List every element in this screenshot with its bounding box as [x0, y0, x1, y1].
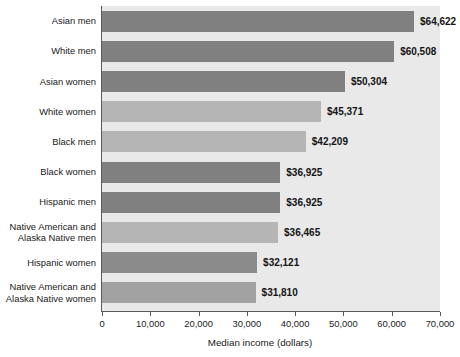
x-tick-mark — [343, 312, 344, 316]
bar-container: $31,810 — [102, 282, 440, 303]
bar-row: Asian men$64,622 — [0, 6, 460, 36]
bar-value-label: $36,465 — [278, 222, 320, 243]
x-axis-title-label: Median income (dollars) — [208, 337, 313, 348]
x-tick-label: 20,000 — [184, 318, 213, 329]
bar-container: $64,622 — [102, 11, 440, 32]
x-tick-label: 60,000 — [377, 318, 406, 329]
bar — [102, 252, 257, 273]
x-tick-mark — [295, 312, 296, 316]
bar-row: Black men$42,209 — [0, 127, 460, 157]
x-tick-mark — [440, 312, 441, 316]
x-tick-mark — [247, 312, 248, 316]
bar-container: $45,371 — [102, 101, 440, 122]
category-label: Asian women — [0, 66, 96, 96]
x-tick-mark — [102, 312, 103, 316]
bar-container: $42,209 — [102, 131, 440, 152]
bar-value-label: $36,925 — [280, 192, 322, 213]
x-tick-label: 50,000 — [329, 318, 358, 329]
bar-container: $32,121 — [102, 252, 440, 273]
bar-container: $50,304 — [102, 71, 440, 92]
bar — [102, 101, 321, 122]
bar-chart: Asian men$64,622White men$60,508Asian wo… — [0, 0, 460, 357]
x-tick-mark — [199, 312, 200, 316]
bar — [102, 192, 280, 213]
bar — [102, 131, 306, 152]
bar-container: $36,925 — [102, 162, 440, 183]
category-label: Black women — [0, 157, 96, 187]
x-tick-label: 0 — [99, 318, 104, 329]
bar — [102, 282, 256, 303]
x-tick-label: 30,000 — [233, 318, 262, 329]
x-tick-label: 10,000 — [136, 318, 165, 329]
bar — [102, 41, 394, 62]
bar-row: Hispanic men$36,925 — [0, 187, 460, 217]
bar-value-label: $45,371 — [321, 101, 363, 122]
category-label: Black men — [0, 127, 96, 157]
x-axis-title: Median income (dollars) — [0, 337, 460, 348]
bar-container: $36,925 — [102, 192, 440, 213]
x-tick-mark — [392, 312, 393, 316]
x-tick-label: 40,000 — [281, 318, 310, 329]
bar-row: Asian women$50,304 — [0, 66, 460, 96]
bar — [102, 222, 278, 243]
category-label: Native American andAlaska Native women — [0, 278, 96, 308]
x-axis-line — [101, 311, 440, 312]
bar-row: Native American andAlaska Native women$3… — [0, 278, 460, 308]
x-tick-mark — [150, 312, 151, 316]
category-label: White women — [0, 97, 96, 127]
bar-container: $36,465 — [102, 222, 440, 243]
bar — [102, 11, 414, 32]
bar-value-label: $32,121 — [257, 252, 299, 273]
bar-value-label: $42,209 — [306, 131, 348, 152]
category-label: White men — [0, 36, 96, 66]
bar-row: White men$60,508 — [0, 36, 460, 66]
x-tick-label: 70,000 — [426, 318, 455, 329]
category-label: Hispanic men — [0, 187, 96, 217]
category-label: Asian men — [0, 6, 96, 36]
bar-row: Black women$36,925 — [0, 157, 460, 187]
bar-container: $60,508 — [102, 41, 440, 62]
bar-row: Native American andAlaska Native men$36,… — [0, 217, 460, 247]
bar-value-label: $31,810 — [256, 282, 298, 303]
bar-value-label: $64,622 — [414, 11, 456, 32]
bar-value-label: $60,508 — [394, 41, 436, 62]
bar — [102, 162, 280, 183]
bar-value-label: $50,304 — [345, 71, 387, 92]
bar-row: White women$45,371 — [0, 97, 460, 127]
category-label: Native American andAlaska Native men — [0, 217, 96, 247]
bar — [102, 71, 345, 92]
category-label: Hispanic women — [0, 248, 96, 278]
bar-value-label: $36,925 — [280, 162, 322, 183]
bar-row: Hispanic women$32,121 — [0, 248, 460, 278]
